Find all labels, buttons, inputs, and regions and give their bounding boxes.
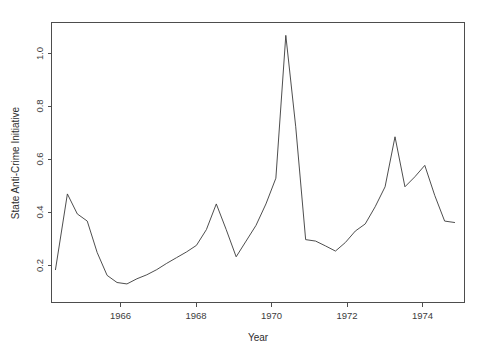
- y-tick-label-4: 1.0: [34, 47, 45, 60]
- x-tick-label-3: 1972: [336, 310, 357, 321]
- x-tick-label-0: 1966: [110, 310, 131, 321]
- line-chart-canvas: 0.2 0.4 0.6 0.8 1.0 1966 1968 1970 1972 …: [0, 0, 481, 353]
- x-axis-title: Year: [248, 332, 269, 343]
- chart-figure: 0.2 0.4 0.6 0.8 1.0 1966 1968 1970 1972 …: [0, 0, 481, 353]
- chart-background: [0, 0, 481, 353]
- x-tick-label-4: 1974: [412, 310, 433, 321]
- x-tick-label-2: 1970: [261, 310, 282, 321]
- x-tick-label-1: 1968: [185, 310, 206, 321]
- y-tick-label-0: 0.2: [34, 259, 45, 272]
- y-tick-label-3: 0.8: [34, 99, 45, 112]
- y-tick-label-2: 0.6: [34, 152, 45, 165]
- y-axis-title: State Anti-Crime Initiative: [10, 106, 21, 219]
- y-tick-label-1: 0.4: [34, 205, 45, 218]
